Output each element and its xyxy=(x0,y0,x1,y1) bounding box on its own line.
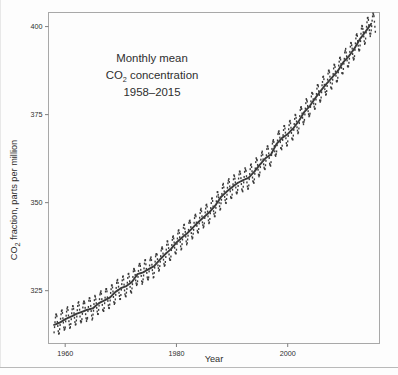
data-point xyxy=(354,55,355,57)
data-point xyxy=(207,215,208,217)
y-axis-title-post: fraction, parts per million xyxy=(9,140,19,243)
data-point xyxy=(247,185,248,187)
data-point xyxy=(82,313,83,315)
data-point xyxy=(267,145,268,147)
data-point xyxy=(334,64,335,66)
data-point xyxy=(95,296,96,298)
data-point xyxy=(59,324,60,326)
data-point xyxy=(203,225,204,227)
data-point xyxy=(338,65,339,67)
data-point xyxy=(142,281,143,283)
data-point xyxy=(345,50,346,52)
data-point xyxy=(275,155,276,157)
data-point xyxy=(110,288,111,290)
data-point xyxy=(185,231,186,233)
data-point xyxy=(263,163,264,165)
data-point xyxy=(65,326,66,328)
data-point xyxy=(278,130,279,132)
data-point xyxy=(329,76,330,78)
data-point xyxy=(62,312,63,314)
data-point xyxy=(171,244,172,246)
data-point xyxy=(249,173,250,175)
data-point xyxy=(326,85,327,87)
data-point xyxy=(277,133,278,135)
data-point xyxy=(268,148,269,150)
data-point xyxy=(248,188,249,190)
data-point xyxy=(265,160,266,162)
data-point xyxy=(152,269,153,271)
data-point xyxy=(193,222,194,224)
data-point xyxy=(199,212,200,214)
data-point xyxy=(162,253,163,255)
data-point xyxy=(156,254,157,256)
data-point xyxy=(129,276,130,278)
data-point xyxy=(132,283,133,285)
data-point xyxy=(230,190,231,192)
data-point xyxy=(262,154,263,156)
data-point xyxy=(59,332,60,334)
data-point xyxy=(325,91,326,93)
data-point xyxy=(222,187,223,189)
page-bottom-rule xyxy=(0,367,398,368)
data-point xyxy=(294,123,295,125)
data-point xyxy=(291,132,292,134)
data-point xyxy=(133,270,134,272)
data-point xyxy=(92,317,93,319)
data-point xyxy=(322,81,323,83)
data-point xyxy=(260,166,261,168)
data-point xyxy=(119,295,120,297)
data-point xyxy=(281,148,282,150)
page-left-rule xyxy=(0,0,1,368)
data-point xyxy=(268,152,269,154)
data-point xyxy=(296,126,297,128)
data-point xyxy=(173,237,174,239)
data-point xyxy=(339,61,340,63)
data-point xyxy=(373,14,374,16)
data-point xyxy=(238,173,239,175)
data-point xyxy=(202,221,203,223)
data-point xyxy=(83,303,84,305)
data-point xyxy=(329,71,330,73)
data-point xyxy=(248,184,249,186)
data-point xyxy=(211,202,212,204)
data-point xyxy=(170,256,171,258)
data-point xyxy=(61,309,62,311)
data-point xyxy=(313,106,314,108)
data-point xyxy=(345,52,346,54)
data-point xyxy=(307,101,308,103)
data-point xyxy=(182,239,183,241)
data-point xyxy=(137,280,138,282)
data-point xyxy=(58,330,59,332)
y-tick-label: 325 xyxy=(31,286,43,295)
data-point xyxy=(81,321,82,323)
data-point xyxy=(124,289,125,291)
annotation-line-2-post: concentration xyxy=(127,69,199,81)
data-point xyxy=(311,96,312,98)
data-point xyxy=(85,313,86,315)
data-point xyxy=(235,181,236,183)
data-point xyxy=(366,26,367,28)
data-point xyxy=(168,247,169,249)
data-point xyxy=(173,241,174,243)
data-point xyxy=(256,159,257,161)
data-point xyxy=(159,265,160,267)
data-point xyxy=(349,58,350,60)
data-point xyxy=(224,199,225,201)
data-point xyxy=(110,292,111,294)
data-point xyxy=(340,59,341,61)
data-point xyxy=(153,276,154,278)
data-point xyxy=(324,88,325,90)
data-point xyxy=(288,128,289,130)
data-point xyxy=(186,242,187,244)
data-point xyxy=(74,321,75,323)
data-point xyxy=(252,177,253,179)
data-point xyxy=(284,125,285,127)
data-point xyxy=(198,232,199,234)
data-point xyxy=(284,127,285,129)
data-point xyxy=(178,229,179,231)
data-point xyxy=(259,171,260,173)
data-point xyxy=(162,248,163,250)
data-point xyxy=(348,65,349,67)
data-point xyxy=(103,307,104,309)
data-point xyxy=(360,33,361,35)
